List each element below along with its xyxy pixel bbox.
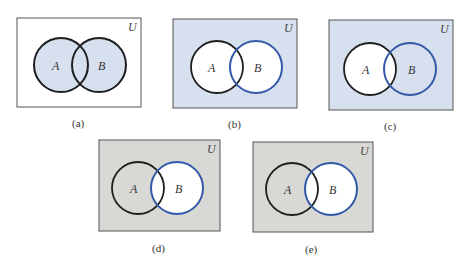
venn-diagram-c: A B U (c) [329,20,453,133]
universe-label: U [128,20,138,34]
universe-label: U [284,21,294,35]
caption-e: (e) [305,243,318,256]
set-b-label: B [408,63,416,77]
universe-label: U [207,142,217,156]
set-a-label: A [361,63,370,77]
set-b-label: B [98,59,106,73]
venn-diagram-figure: A B U (a) A B U (b) A B U (c) A B U (d) [0,0,463,267]
universe-label: U [360,144,370,158]
caption-b: (b) [228,118,241,131]
venn-diagram-d: A B U (d) [99,140,220,255]
set-a-label: A [129,182,138,196]
set-b-label: B [254,61,262,75]
set-b-label: B [175,182,183,196]
set-a-label: A [51,59,60,73]
venn-diagram-e: A B U (e) [253,142,373,256]
universe-label: U [440,22,450,36]
venn-diagram-a: A B U (a) [17,18,141,130]
caption-d: (d) [152,242,165,255]
caption-c: (c) [384,120,397,133]
set-a-label: A [207,61,216,75]
caption-a: (a) [72,117,85,130]
venn-diagram-b: A B U (b) [173,19,297,131]
set-b-label: B [329,183,337,197]
set-a-label: A [283,183,292,197]
